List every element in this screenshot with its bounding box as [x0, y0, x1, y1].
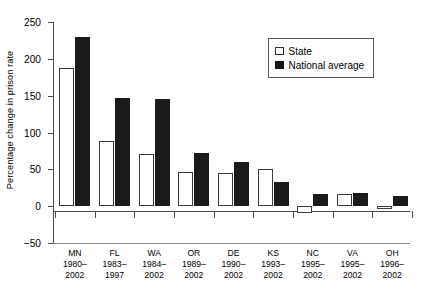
- x-axis-label-mn: MN1980–2002: [55, 248, 95, 282]
- bar-mn-state: [59, 68, 74, 206]
- y-tick-label-100: 100: [24, 127, 41, 138]
- bar-oh-national-average: [393, 196, 408, 206]
- x-label-period-start: 1989–: [174, 259, 214, 270]
- x-label-period-end: 2002: [174, 270, 214, 281]
- x-label-period-start: 1980–: [55, 259, 95, 270]
- x-tick-7: [333, 211, 334, 218]
- legend-label-national-average: National average: [289, 60, 365, 71]
- x-label-state-abbr: KS: [253, 248, 293, 259]
- y-tick-100: 100: [48, 133, 53, 134]
- y-tick-150: 150: [48, 96, 53, 97]
- x-label-period-end: 1997: [95, 270, 135, 281]
- bar-de-national-average: [234, 162, 249, 206]
- bar-ks-state: [258, 169, 273, 207]
- chart-legend: State National average: [268, 38, 374, 78]
- y-tick-label-150: 150: [24, 90, 41, 101]
- x-tick-0: [55, 211, 56, 218]
- x-axis-label-va: VA1995–2002: [333, 248, 373, 282]
- bar-ks-national-average: [274, 182, 289, 206]
- x-axis-label-nc: NC1995–2002: [293, 248, 333, 282]
- x-label-state-abbr: OR: [174, 248, 214, 259]
- x-label-period-start: 1984–: [134, 259, 174, 270]
- x-label-state-abbr: WA: [134, 248, 174, 259]
- x-label-period-end: 2002: [55, 270, 95, 281]
- x-label-state-abbr: OH: [372, 248, 412, 259]
- y-tick-50: 50: [48, 169, 53, 170]
- x-label-period-end: 2002: [333, 270, 373, 281]
- x-axis-label-wa: WA1984–2002: [134, 248, 174, 282]
- chart-figure: Percentage change in prison rate 2502001…: [0, 0, 426, 301]
- x-tick-5: [253, 211, 254, 218]
- x-tick-8: [372, 211, 373, 218]
- bar-mn-national-average: [75, 37, 90, 206]
- x-axis-line: [53, 243, 410, 244]
- y-tick-250: 250: [48, 22, 53, 23]
- bar-va-national-average: [353, 193, 368, 206]
- y-tick-label-200: 200: [24, 53, 41, 64]
- x-tick-2: [134, 211, 135, 218]
- x-label-state-abbr: FL: [95, 248, 135, 259]
- x-label-period-start: 1983–: [95, 259, 135, 270]
- bar-wa-national-average: [155, 99, 170, 206]
- x-tick-3: [174, 211, 175, 218]
- x-label-period-end: 2002: [214, 270, 254, 281]
- bar-va-state: [337, 194, 352, 207]
- x-label-period-start: 1995–: [293, 259, 333, 270]
- legend-label-state: State: [289, 46, 312, 57]
- x-axis-label-or: OR1989–2002: [174, 248, 214, 282]
- bar-fl-state: [99, 141, 114, 206]
- bar-or-national-average: [194, 153, 209, 206]
- x-label-period-start: 1996–: [372, 259, 412, 270]
- x-tick-end: [412, 211, 413, 218]
- x-label-period-start: 1995–: [333, 259, 373, 270]
- x-label-period-end: 2002: [372, 270, 412, 281]
- zero-baseline: [53, 211, 410, 212]
- x-axis-label-de: DE1990–2002: [214, 248, 254, 282]
- x-label-period-start: 1993–: [253, 259, 293, 270]
- bar-nc-state: [297, 206, 312, 213]
- x-tick-1: [95, 211, 96, 218]
- x-label-period-start: 1990–: [214, 259, 254, 270]
- y-axis-line: [53, 22, 54, 243]
- x-axis-label-ks: KS1993–2002: [253, 248, 293, 282]
- x-label-state-abbr: NC: [293, 248, 333, 259]
- y-axis-label-text: Percentage change in prison rate: [5, 51, 15, 190]
- legend-item-national-average: National average: [275, 58, 364, 72]
- y-axis-label: Percentage change in prison rate: [2, 0, 18, 240]
- x-tick-6: [293, 211, 294, 218]
- x-label-state-abbr: MN: [55, 248, 95, 259]
- y-tick-label-250: 250: [24, 17, 41, 28]
- x-label-state-abbr: VA: [333, 248, 373, 259]
- x-axis-label-oh: OH1996–2002: [372, 248, 412, 282]
- bar-oh-state: [377, 206, 392, 209]
- x-tick-4: [214, 211, 215, 218]
- y-tick-label-0: 0: [35, 201, 41, 212]
- bar-wa-state: [139, 154, 154, 206]
- bar-or-state: [178, 172, 193, 207]
- x-label-state-abbr: DE: [214, 248, 254, 259]
- x-label-period-end: 2002: [293, 270, 333, 281]
- x-axis-label-fl: FL1983–1997: [95, 248, 135, 282]
- y-tick-label-50: 50: [30, 164, 41, 175]
- x-label-period-end: 2002: [253, 270, 293, 281]
- y-tick--50: −50: [48, 243, 53, 244]
- y-tick-200: 200: [48, 59, 53, 60]
- bar-nc-national-average: [313, 194, 328, 207]
- y-tick-0: 0: [48, 206, 53, 207]
- bar-de-state: [218, 173, 233, 206]
- y-tick-label--50: −50: [24, 238, 41, 249]
- open-square-icon: [275, 47, 284, 56]
- bar-fl-national-average: [115, 98, 130, 206]
- x-label-period-end: 2002: [134, 270, 174, 281]
- filled-square-icon: [275, 61, 284, 70]
- x-axis-labels: MN1980–2002FL1983–1997WA1984–2002OR1989–…: [53, 248, 410, 298]
- legend-item-state: State: [275, 44, 364, 58]
